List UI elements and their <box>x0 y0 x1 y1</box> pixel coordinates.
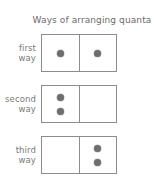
quantum-dot <box>57 94 64 101</box>
row-label-line1: third <box>16 145 36 155</box>
two-cell-box <box>41 85 117 123</box>
arrangement-row: third way <box>0 136 154 174</box>
row-label-third-way: third way <box>0 145 36 165</box>
arrangement-row: first way <box>0 34 154 72</box>
row-label-line1: second <box>5 94 36 104</box>
quantum-dot <box>57 108 64 115</box>
quantum-dot <box>94 145 101 152</box>
two-cell-box <box>41 136 117 174</box>
left-cell <box>42 137 79 173</box>
row-label-line2: way <box>0 155 36 165</box>
quantum-dot <box>94 50 101 57</box>
right-cell <box>79 86 116 122</box>
right-cell <box>79 35 116 71</box>
quantum-dot <box>94 159 101 166</box>
row-label-second-way: second way <box>0 94 36 114</box>
right-cell <box>79 137 116 173</box>
figure-title: Ways of arranging quanta <box>31 15 153 26</box>
row-label-line2: way <box>0 53 36 63</box>
arrangement-row: second way <box>0 85 154 123</box>
row-label-first-way: first way <box>0 43 36 63</box>
left-cell <box>42 86 79 122</box>
two-cell-box <box>41 34 117 72</box>
row-label-line2: way <box>0 104 36 114</box>
left-cell <box>42 35 79 71</box>
row-label-line1: first <box>19 43 36 53</box>
quantum-dot <box>57 50 64 57</box>
quanta-arrangement-figure: Ways of arranging quanta first way secon… <box>0 0 154 183</box>
